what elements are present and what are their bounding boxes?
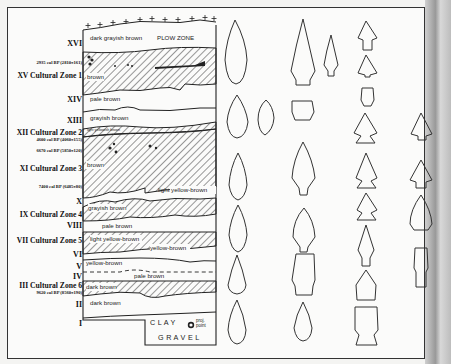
point-corner-notched-1 [358,21,377,50]
sed-plow-zone: PLOW ZONE [157,34,194,41]
point-expanded-base [356,270,376,300]
point-corner-notched-2 [358,55,377,77]
point-lanceolate-2 [324,35,338,76]
point-leaf-1 [225,20,247,84]
sed-grayish-brown-ix: grayish brown [88,204,127,211]
point-serrated-oval-1 [229,153,247,200]
point-teardrop-2 [228,300,246,344]
sed-yellow-brown-vi: yellow-brown [150,244,187,251]
sed-pale-brown-viii: pale brown [102,222,133,229]
point-rect-notched [292,254,315,295]
point-side-notched-1 [354,113,377,143]
sed-pale-brown-iv: pale brown [134,272,165,279]
point-wide-stemmed [293,208,315,252]
projectile-points [225,19,432,345]
point-lanceolate-1 [291,19,315,85]
point-notched-base [361,88,374,106]
ground-surface [83,20,216,30]
point-leaf-stemmed [292,142,315,195]
proj-point-icon [189,323,194,328]
legend-line2: point [196,323,207,328]
sed-light-yellow-brown-vii: light yellow-brown [90,235,140,242]
sed-light-yellow-brown-x: light yellow-brown [158,186,208,193]
point-side-notched-2 [356,153,377,188]
sed-pale-brown-xiv: pale brown [90,95,121,102]
sed-yellow-brown-v: yellow-brown [86,259,123,266]
sed-gravel: G R A V E L [158,333,200,342]
point-serrated-oval-2 [229,205,247,252]
sed-brown-xv: brown [87,73,104,80]
sed-dark-grayish-brown: dark grayish brown [90,34,143,41]
point-stemmed-long [358,225,374,266]
sed-clay: C L A Y [150,318,176,327]
point-corner-notched-3 [411,113,432,140]
sed-brown-xi: brown [87,161,104,168]
point-leaf-2 [227,95,248,138]
point-corner-notched-4 [410,160,432,188]
profile-drawing: dark grayish brown PLOW ZONE brown pale … [0,0,451,364]
sed-grayish-brown-xiii: grayish brown [90,114,129,121]
boundary-xiv-xiii [83,107,216,112]
sed-light-yellowish-brown: light yellowish brown [87,128,120,132]
point-broad-stemmed [410,195,432,230]
point-rect-narrow [414,248,428,287]
stratum-xv [83,47,216,95]
sed-dark-brown-iii: dark brown [86,283,117,290]
point-stemmed-broad [292,101,314,120]
sed-dark-brown-ii: dark brown [90,299,121,306]
point-teardrop-3 [294,302,312,341]
point-serrated-oval-small [258,100,274,135]
point-rect-large [355,307,378,345]
point-side-notched-3 [357,193,377,220]
point-teardrop-1 [228,255,246,294]
